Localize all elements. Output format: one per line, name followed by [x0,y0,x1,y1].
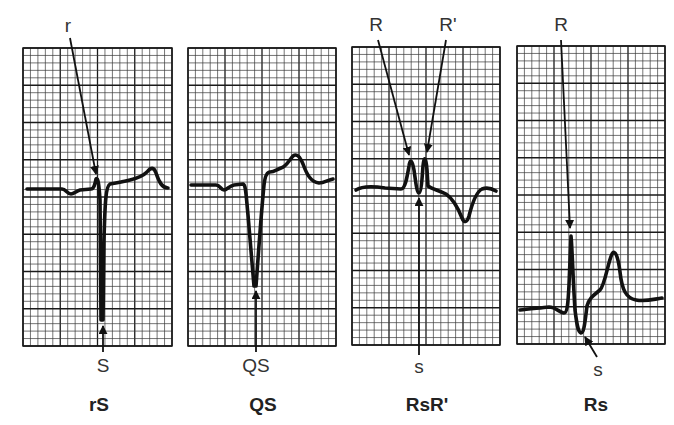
arrow-icon [427,40,446,152]
wave-label: QS [242,355,269,376]
ecg-panel-RsR-prime: RR'sRsR' [352,14,500,415]
wave-label: R [554,14,568,35]
ecg-panel-Rs: RsRs [517,14,665,415]
arrow-icon [378,40,409,155]
ecg-qrs-morphology-figure: rSrSQSQSRR'sRsR'RsRs [0,0,674,425]
wave-label: R' [439,14,456,35]
ecg-panel-rS: rSrS [23,15,172,415]
panel-title: rS [89,394,109,415]
panel-title: RsR' [406,394,449,415]
wave-label: s [593,359,603,380]
arrow-icon [70,38,96,174]
wave-label: R [369,14,383,35]
wave-label: s [414,356,424,377]
panel-title: QS [249,394,276,415]
ecg-panel-QS: QSQS [188,48,336,415]
wave-label: S [97,355,110,376]
panel-title: Rs [584,394,608,415]
wave-label: r [65,15,72,36]
ecg-grid [23,48,172,346]
